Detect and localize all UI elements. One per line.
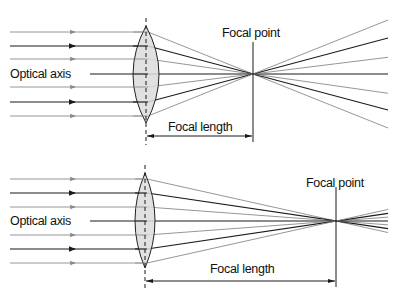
- refracted-ray: [147, 209, 388, 263]
- refracted-ray: [148, 38, 388, 102]
- optical-axis-label: Optical axis: [10, 67, 71, 81]
- refracted-ray: [148, 46, 388, 110]
- refracted-ray: [148, 32, 388, 128]
- refracted-ray: [147, 217, 388, 235]
- refracted-ray: [147, 213, 388, 249]
- focal-point-label: Focal point: [222, 26, 281, 40]
- focal-point-label: Focal point: [306, 176, 365, 190]
- refracted-ray: [148, 57, 388, 87]
- optical-axis-label: Optical axis: [10, 214, 71, 228]
- refracted-ray: [147, 207, 388, 225]
- lens-focal-length-diagram: Optical axis Focal point Focal length Op…: [0, 0, 398, 297]
- focal-length-label: Focal length: [168, 120, 233, 134]
- refracted-ray: [147, 193, 388, 229]
- focal-length-label: Focal length: [210, 262, 275, 276]
- refracted-ray: [148, 59, 388, 93]
